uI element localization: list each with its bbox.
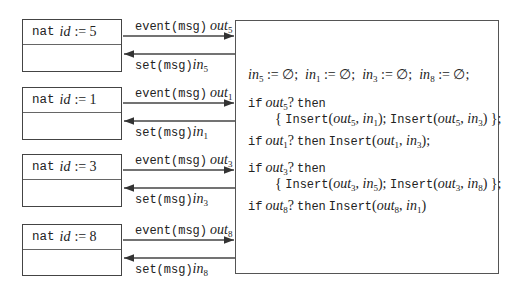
- process-box-1: nat id := 1: [22, 87, 122, 140]
- rule-out5-cond: if out5? then: [248, 95, 326, 111]
- set-label-1: set(msg)in1: [135, 124, 208, 140]
- id-var: id: [60, 159, 71, 175]
- event-label-3: event(msg) out3: [135, 152, 232, 168]
- rule-out5-body: { Insert(out5, in1); Insert(out5, in3) }…: [275, 111, 501, 127]
- rule-out8: if out8? then Insert(out8, in1): [248, 198, 426, 214]
- rule-out3-body: { Insert(out3, in5); Insert(out3, in8) }…: [275, 176, 501, 192]
- type-keyword: nat: [32, 93, 55, 107]
- process-box-3: nat id := 3: [22, 154, 122, 207]
- assign-op: :=: [74, 159, 86, 175]
- type-keyword: nat: [32, 25, 55, 39]
- set-label-3: set(msg)in3: [135, 191, 208, 207]
- set-label-5: set(msg)in5: [135, 57, 208, 73]
- init-line: in5 := ∅; in1 := ∅; in3 := ∅; in8 := ∅;: [248, 66, 469, 83]
- event-label-5: event(msg) out5: [135, 18, 232, 34]
- type-keyword: nat: [32, 160, 55, 174]
- assign-op: :=: [74, 24, 86, 40]
- id-var: id: [60, 229, 71, 245]
- id-value: 1: [89, 92, 96, 108]
- assign-op: :=: [74, 92, 86, 108]
- event-label-1: event(msg) out1: [135, 85, 232, 101]
- assign-op: :=: [74, 229, 86, 245]
- rule-out3-cond: if out3? then: [248, 160, 326, 176]
- id-var: id: [60, 92, 71, 108]
- id-value: 5: [89, 24, 96, 40]
- id-value: 3: [89, 159, 96, 175]
- process-box-8: nat id := 8: [22, 224, 122, 276]
- event-label-8: event(msg) out8: [135, 222, 232, 238]
- set-label-8: set(msg)in8: [135, 261, 208, 277]
- process-box-5: nat id := 5: [22, 19, 122, 72]
- rule-out1: if out1? then Insert(out1, in3);: [248, 133, 430, 149]
- type-keyword: nat: [32, 230, 55, 244]
- id-value: 8: [89, 229, 96, 245]
- id-var: id: [60, 24, 71, 40]
